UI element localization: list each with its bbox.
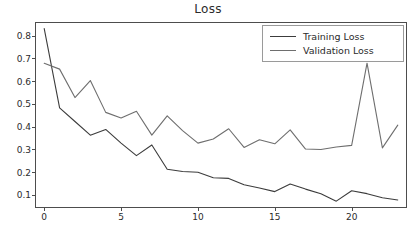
chart-title: Loss	[0, 2, 416, 16]
x-axis-tick-labels: 05101520	[35, 212, 407, 228]
x-tick-label: 0	[29, 212, 59, 222]
y-tick-mark	[32, 127, 35, 128]
y-tick-mark	[32, 195, 35, 196]
y-tick-label: 0.7	[5, 54, 31, 64]
x-tick-label: 20	[337, 212, 367, 222]
legend-swatch-validation	[270, 50, 296, 51]
legend-label-validation: Validation Loss	[303, 45, 374, 56]
y-tick-label: 0.6	[5, 77, 31, 87]
y-tick-label: 0.1	[5, 190, 31, 200]
y-tick-mark	[32, 172, 35, 173]
x-tick-label: 10	[183, 212, 213, 222]
x-tick-mark	[44, 208, 45, 211]
y-tick-label: 0.4	[5, 122, 31, 132]
y-tick-label: 0.3	[5, 145, 31, 155]
legend-item-validation: Validation Loss	[267, 43, 399, 57]
y-tick-mark	[32, 149, 35, 150]
y-tick-mark	[32, 81, 35, 82]
loss-chart-figure: Loss 0.10.20.30.40.50.60.70.8 05101520 T…	[0, 0, 416, 241]
series-line-validation-loss	[44, 63, 398, 149]
x-tick-mark	[352, 208, 353, 211]
legend-item-training: Training Loss	[267, 29, 399, 43]
legend-swatch-training	[270, 36, 296, 37]
y-tick-mark	[32, 58, 35, 59]
y-tick-label: 0.2	[5, 168, 31, 178]
y-tick-mark	[32, 36, 35, 37]
x-tick-label: 15	[260, 212, 290, 222]
x-tick-mark	[275, 208, 276, 211]
y-tick-label: 0.8	[5, 31, 31, 41]
y-tick-label: 0.5	[5, 99, 31, 109]
y-axis-tick-labels: 0.10.20.30.40.50.60.70.8	[0, 0, 31, 241]
x-tick-label: 5	[106, 212, 136, 222]
legend: Training Loss Validation Loss	[262, 25, 404, 62]
x-tick-mark	[198, 208, 199, 211]
x-tick-mark	[121, 208, 122, 211]
legend-label-training: Training Loss	[303, 31, 364, 42]
y-tick-mark	[32, 104, 35, 105]
